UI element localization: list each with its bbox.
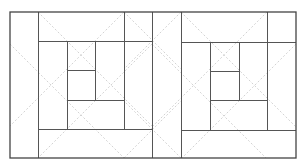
quilt-diagram [0, 0, 299, 161]
dashed-line [152, 44, 266, 158]
block-seam-lines [38, 12, 296, 158]
dashed-fold-lines [10, 12, 296, 158]
outer-border [10, 12, 296, 158]
